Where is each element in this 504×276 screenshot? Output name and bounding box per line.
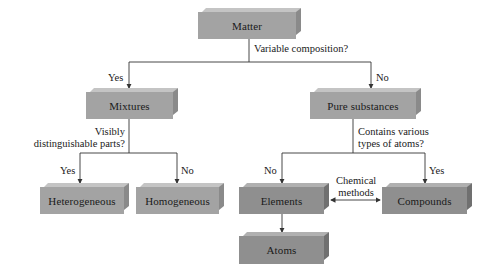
node-elements-label: Elements: [261, 195, 303, 207]
edge-label-no-elements: No: [264, 165, 277, 177]
edge-label-yes-mixtures: Yes: [108, 72, 123, 84]
edge-label-yes-heterogeneous: Yes: [60, 165, 75, 177]
question-visibly-distinguishable: Visibly distinguishable parts?: [30, 126, 125, 150]
question-various-atoms: Contains various types of atoms?: [358, 126, 429, 150]
node-matter: Matter: [198, 8, 301, 39]
node-compounds-label: Compounds: [397, 195, 451, 207]
edge-label-chemical-methods: Chemical methods: [336, 175, 376, 199]
edge-label-no-pure: No: [376, 72, 389, 84]
node-atoms: Atoms: [239, 232, 329, 264]
node-homogeneous-label: Homogeneous: [145, 195, 210, 207]
node-atoms-label: Atoms: [267, 244, 297, 256]
node-heterogeneous-label: Heterogeneous: [48, 195, 115, 207]
edge-label-no-homogeneous: No: [181, 165, 194, 177]
node-mixtures: Mixtures: [86, 88, 178, 119]
node-heterogeneous: Heterogeneous: [40, 183, 129, 214]
node-homogeneous: Homogeneous: [136, 183, 224, 214]
node-pure-substances: Pure substances: [310, 88, 421, 119]
node-matter-label: Matter: [232, 20, 262, 32]
node-elements: Elements: [239, 183, 329, 214]
node-mixtures-label: Mixtures: [109, 100, 150, 112]
question-variable-composition: Variable composition?: [254, 43, 348, 55]
node-compounds: Compounds: [382, 183, 472, 214]
edge-label-yes-compounds: Yes: [429, 165, 444, 177]
node-pure-substances-label: Pure substances: [327, 100, 398, 112]
